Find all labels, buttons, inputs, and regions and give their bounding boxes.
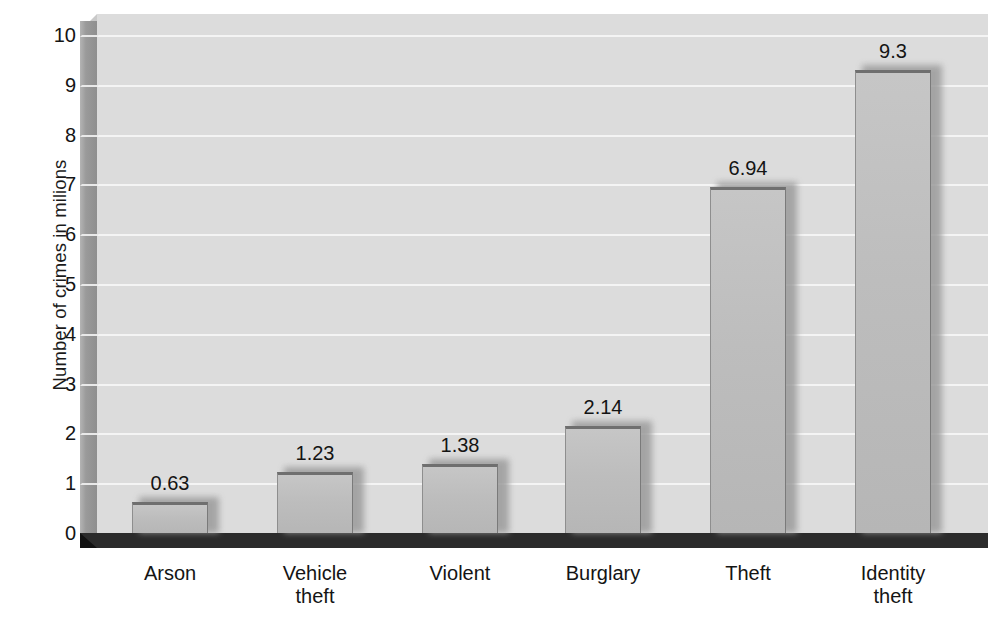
bar[interactable] bbox=[277, 472, 353, 533]
bar[interactable] bbox=[422, 464, 498, 533]
x-axis-category-label: Violent bbox=[380, 562, 540, 585]
bar-value-label: 2.14 bbox=[543, 397, 663, 417]
bar-value-label: 1.23 bbox=[255, 443, 375, 463]
y-tick-label: 6 bbox=[42, 224, 76, 244]
left-axis-wall bbox=[80, 21, 97, 548]
bar-face bbox=[855, 70, 931, 533]
y-tick-label: 10 bbox=[42, 25, 76, 45]
bar[interactable] bbox=[855, 70, 931, 533]
y-tick-label: 4 bbox=[42, 324, 76, 344]
y-tick-label: 5 bbox=[42, 274, 76, 294]
y-axis-tick-labels: 012345678910 bbox=[24, 0, 76, 617]
y-tick-label: 3 bbox=[42, 374, 76, 394]
bar-face bbox=[710, 187, 786, 533]
y-tick-label: 8 bbox=[42, 125, 76, 145]
x-axis-category-label: Burglary bbox=[523, 562, 683, 585]
chart-floor bbox=[80, 533, 988, 548]
gridline bbox=[97, 35, 988, 37]
bar-value-label: 0.63 bbox=[110, 473, 230, 493]
y-tick-label: 7 bbox=[42, 174, 76, 194]
bar-value-label: 1.38 bbox=[400, 435, 520, 455]
plot-area bbox=[80, 14, 988, 548]
x-axis-category-label: Vehicle theft bbox=[235, 562, 395, 608]
y-tick-label: 9 bbox=[42, 75, 76, 95]
bar-chart: Number of crimes in milions 012345678910… bbox=[0, 0, 988, 617]
bar-value-label: 6.94 bbox=[688, 158, 808, 178]
y-tick-label: 2 bbox=[42, 423, 76, 443]
bar-face bbox=[422, 464, 498, 533]
bar-value-label: 9.3 bbox=[833, 41, 953, 61]
bar[interactable] bbox=[710, 187, 786, 533]
x-axis-category-label: Arson bbox=[90, 562, 250, 585]
y-tick-label: 0 bbox=[42, 523, 76, 543]
bar[interactable] bbox=[132, 502, 208, 533]
x-axis-category-label: Theft bbox=[668, 562, 828, 585]
bar-face bbox=[132, 502, 208, 533]
y-tick-label: 1 bbox=[42, 473, 76, 493]
bar-face bbox=[565, 426, 641, 533]
x-axis-category-label: Identity theft bbox=[813, 562, 973, 608]
bar-face bbox=[277, 472, 353, 533]
bar[interactable] bbox=[565, 426, 641, 533]
